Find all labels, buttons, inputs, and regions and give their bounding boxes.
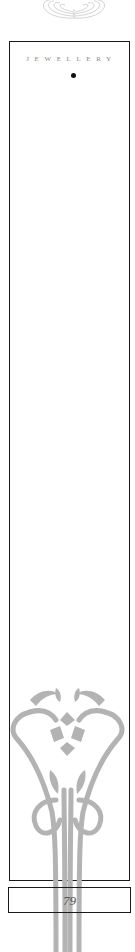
bullet-dot-icon [71,73,76,78]
section-title: JEWELLERY [9,55,130,63]
top-swirl-ornament-icon [38,0,110,20]
page-number: 79 [8,893,131,909]
